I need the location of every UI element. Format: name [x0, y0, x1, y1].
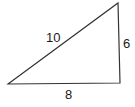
right-triangle	[8, 3, 120, 84]
triangle-diagram: 10 6 8	[0, 0, 135, 107]
hypotenuse-label: 10	[46, 30, 60, 45]
vertical-side-label: 6	[123, 36, 130, 51]
base-label: 8	[65, 87, 72, 102]
